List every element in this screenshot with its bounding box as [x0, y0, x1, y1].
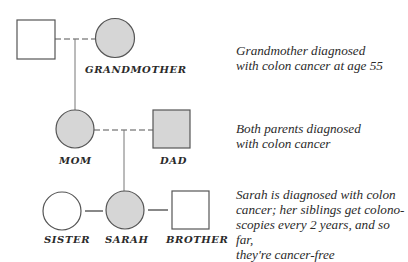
- caption-line: Both parents diagnosed: [236, 121, 361, 136]
- mom-label: MOM: [59, 155, 92, 166]
- caption-line: scopies every 2 years, and so far,: [236, 217, 408, 247]
- sarah-label: SARAH: [105, 234, 149, 245]
- grandmother-label: GRANDMOTHER: [85, 64, 187, 75]
- sarah-circle: [106, 191, 144, 229]
- caption-line: Sarah is diagnosed with colon: [236, 187, 408, 202]
- grandfather-square: [17, 20, 55, 59]
- sarah-caption: Sarah is diagnosed with colon cancer; he…: [236, 187, 408, 262]
- caption-line: with colon cancer: [236, 136, 361, 151]
- caption-line: with colon cancer at age 55: [236, 58, 383, 73]
- grandmother-caption: Grandmother diagnosed with colon cancer …: [236, 43, 383, 73]
- caption-line: cancer; her siblings get colono-: [236, 202, 408, 217]
- grandmother-circle: [96, 19, 135, 58]
- sister-label: SISTER: [44, 234, 90, 245]
- caption-line: Grandmother diagnosed: [236, 43, 383, 58]
- caption-line: they're cancer-free: [236, 247, 408, 262]
- brother-square: [172, 191, 209, 229]
- sister-circle: [43, 192, 81, 230]
- dad-label: DAD: [160, 155, 187, 166]
- mom-circle: [56, 110, 94, 148]
- parents-caption: Both parents diagnosed with colon cancer: [236, 121, 361, 151]
- brother-label: BROTHER: [166, 234, 229, 245]
- dad-square: [153, 110, 190, 148]
